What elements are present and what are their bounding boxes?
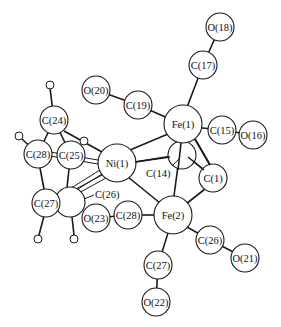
- label-c19: C(19): [126, 100, 151, 112]
- bond-fe1-c1-front: [195, 139, 210, 165]
- molecular-structure-diagram: O(18) C(17) O(20) C(19) Fe(1) C(15) O(16…: [0, 0, 281, 327]
- label-c14: C(14): [146, 168, 171, 180]
- bond-c25-c26: [67, 169, 69, 188]
- atoms: [15, 13, 267, 316]
- label-fe2: Fe(2): [162, 210, 185, 222]
- bond-ni1-c14-front: [135, 157, 170, 162]
- label-c25: C(25): [59, 150, 84, 162]
- bond-ni1-fe2: [128, 177, 160, 203]
- label-o21: O(21): [232, 253, 258, 265]
- label-c28-co: C(28): [116, 210, 141, 222]
- label-ni1: Ni(1): [106, 158, 129, 170]
- atom-h-c26: [70, 235, 78, 243]
- bond-c28-c27: [40, 168, 44, 189]
- bond-c27-h: [39, 216, 44, 235]
- atom-c14: [168, 141, 196, 169]
- label-o22: O(22): [143, 297, 169, 309]
- label-c26-ring: C(26): [95, 189, 120, 201]
- label-fe1: Fe(1): [172, 119, 195, 131]
- label-c28-ring: C(28): [26, 149, 51, 161]
- label-o20: O(20): [83, 85, 109, 97]
- structure-drawing: O(18) C(17) O(20) C(19) Fe(1) C(15) O(16…: [0, 0, 281, 327]
- atom-h-c25: [80, 137, 88, 145]
- label-c1: C(1): [203, 173, 223, 185]
- bond-c26-h: [72, 217, 74, 235]
- bond-c26-leader: [84, 195, 94, 199]
- label-c24: C(24): [42, 115, 67, 127]
- label-o18: O(18): [207, 22, 233, 34]
- label-o16: O(16): [240, 130, 266, 142]
- bond-fe1-ni1: [130, 134, 168, 150]
- atom-h-c27: [34, 235, 42, 243]
- atom-h-c24: [46, 81, 54, 89]
- label-c27-co: C(27): [146, 260, 171, 272]
- label-c15: C(15): [210, 125, 235, 137]
- bond-c1-fe2: [186, 189, 205, 204]
- label-c17: C(17): [191, 60, 216, 72]
- atom-h-c28: [15, 132, 23, 140]
- label-c26-co: C(26): [198, 235, 223, 247]
- label-o23: O(23): [83, 213, 109, 225]
- label-c27-ring: C(27): [34, 198, 59, 210]
